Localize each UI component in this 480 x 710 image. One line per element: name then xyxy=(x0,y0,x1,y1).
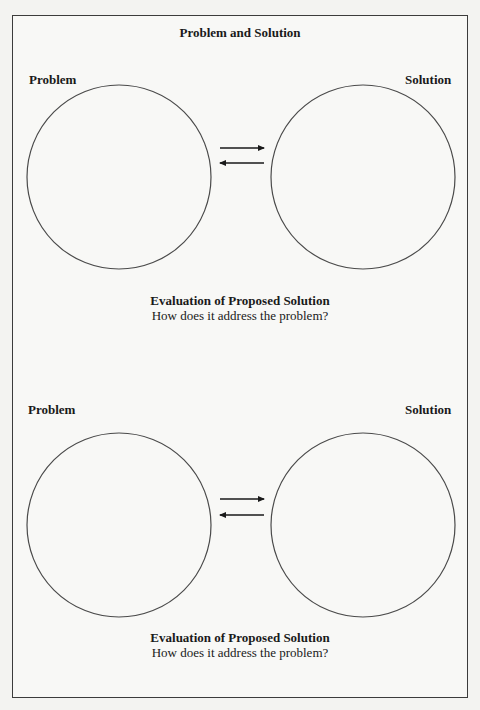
evaluation-prompt-1: How does it address the problem? xyxy=(0,308,480,323)
evaluation-prompt-2: How does it address the problem? xyxy=(0,645,480,660)
evaluation-block-1: Evaluation of Proposed Solution How does… xyxy=(0,293,480,323)
evaluation-heading-2: Evaluation of Proposed Solution xyxy=(0,630,480,645)
problem-solution-diagram xyxy=(0,0,480,710)
evaluation-heading-1: Evaluation of Proposed Solution xyxy=(0,293,480,308)
section-2-diagram xyxy=(27,433,455,617)
evaluation-block-2: Evaluation of Proposed Solution How does… xyxy=(0,630,480,660)
problem-circle-1 xyxy=(27,85,211,269)
problem-circle-2 xyxy=(27,433,211,617)
solution-circle-2 xyxy=(271,433,455,617)
solution-circle-1 xyxy=(271,85,455,269)
section-1-diagram xyxy=(27,85,455,269)
